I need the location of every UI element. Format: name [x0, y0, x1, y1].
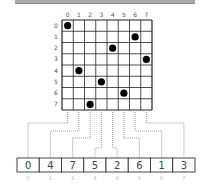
- array-index: 3: [93, 175, 96, 181]
- chess-board-grid: [62, 20, 152, 110]
- array-index: 1: [49, 175, 52, 181]
- row-label: 1: [54, 33, 58, 40]
- queen-icon: [120, 90, 127, 97]
- queen-icon: [143, 56, 150, 63]
- connector-line: [28, 110, 68, 158]
- solution-array: 04752613: [17, 158, 195, 172]
- queen-icon: [75, 67, 82, 74]
- array-index: 6: [160, 175, 163, 181]
- array-value: 6: [136, 160, 142, 171]
- row-label: 3: [54, 55, 58, 62]
- queen-icon: [98, 78, 105, 85]
- column-labels: 01234567: [66, 11, 149, 18]
- eight-queens-diagram: 01234567 01234567 04752613 01234567: [0, 0, 208, 183]
- column-label: 7: [144, 11, 148, 18]
- row-label: 6: [54, 89, 58, 96]
- row-label: 2: [54, 44, 58, 51]
- queen-icon: [109, 45, 116, 52]
- connector-line: [124, 110, 140, 158]
- connector-line: [113, 110, 118, 158]
- array-value: 1: [158, 160, 164, 171]
- row-label: 7: [54, 100, 58, 107]
- array-value: 2: [114, 160, 120, 171]
- column-label: 3: [99, 11, 103, 18]
- queen-icon: [132, 33, 139, 40]
- column-label: 0: [66, 11, 70, 18]
- connector-line: [50, 110, 79, 158]
- array-index-labels: 01234567: [27, 175, 186, 181]
- array-value: 0: [25, 160, 31, 171]
- column-label: 1: [77, 11, 81, 18]
- array-index: 5: [138, 175, 141, 181]
- array-value: 7: [69, 160, 75, 171]
- connector-line: [73, 110, 91, 158]
- row-label: 4: [54, 67, 58, 74]
- array-index: 7: [182, 175, 185, 181]
- column-label: 6: [133, 11, 137, 18]
- array-index: 2: [71, 175, 74, 181]
- column-label: 5: [122, 11, 126, 18]
- row-label: 0: [54, 22, 58, 29]
- queen-icon: [87, 101, 94, 108]
- array-value: 4: [47, 160, 53, 171]
- queen-icon: [64, 22, 71, 29]
- row-labels: 01234567: [54, 22, 58, 108]
- array-index: 0: [27, 175, 30, 181]
- array-value: 3: [181, 160, 187, 171]
- connector-line: [146, 110, 184, 158]
- column-label: 2: [88, 11, 92, 18]
- connector-line: [95, 110, 102, 158]
- row-label: 5: [54, 78, 58, 85]
- connector-lines: [28, 110, 184, 158]
- array-index: 4: [116, 175, 119, 181]
- array-value: 5: [92, 160, 98, 171]
- column-label: 4: [111, 11, 115, 18]
